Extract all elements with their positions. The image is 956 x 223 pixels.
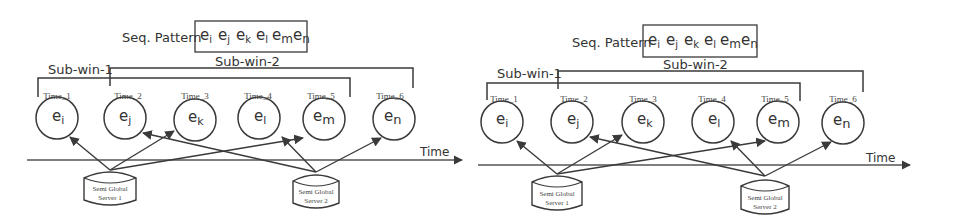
- diagram-canvas: Seq. Pattern ei ej ek el em en Sub-win-1…: [0, 0, 956, 223]
- seq-pattern-events: ei ej ek el em en: [648, 31, 758, 51]
- sub-window-1-label: Sub-win-1: [48, 62, 113, 77]
- sub-window-2-label: Sub-win-2: [663, 57, 728, 72]
- time-label: Time_2: [114, 91, 142, 101]
- svg-text:em: em: [720, 31, 741, 51]
- svg-text:ei: ei: [52, 107, 64, 127]
- svg-text:Semi Global: Semi Global: [747, 194, 782, 202]
- time-slot: Time_2 ej: [551, 94, 593, 143]
- svg-text:em: em: [768, 110, 790, 130]
- svg-text:en: en: [833, 111, 850, 131]
- sub-window-1-label: Sub-win-1: [497, 66, 562, 81]
- time-slot: Time_1 ei: [36, 91, 78, 139]
- seq-pattern-label: Seq. Pattern: [572, 35, 652, 50]
- time-slot: Time_3 ek: [174, 91, 216, 141]
- svg-text:ek: ek: [637, 110, 653, 130]
- svg-text:Server 1: Server 1: [98, 194, 122, 202]
- seq-pattern: Seq. Pattern ei ej ek el em en: [122, 21, 310, 52]
- sub-window-2: Sub-win-2: [110, 54, 413, 88]
- seq-pattern-events: ei ej ek el em en: [200, 26, 310, 46]
- diagram-left: Seq. Pattern ei ej ek el em en Sub-win-1…: [27, 21, 462, 208]
- svg-text:ej: ej: [666, 31, 678, 50]
- svg-text:ej: ej: [567, 110, 579, 130]
- time-axis-label: Time: [419, 145, 449, 159]
- svg-text:en: en: [384, 107, 401, 127]
- time-slot: Time_4 el: [692, 94, 734, 143]
- time-axis-label: Time: [865, 151, 895, 165]
- time-slot: Time_3 ek: [622, 94, 664, 143]
- time-slot: Time_5 em: [303, 91, 345, 140]
- svg-text:ek: ek: [236, 26, 251, 45]
- sub-window-2-bracket: [558, 71, 863, 92]
- time-slot: Time_5 em: [757, 94, 799, 143]
- svg-text:em: em: [272, 26, 293, 46]
- svg-text:Server 1: Server 1: [545, 199, 569, 207]
- time-slot: Time_4 el: [238, 91, 280, 139]
- server-2: Semi Global Server 2: [741, 180, 789, 214]
- server-2: Semi Global Server 2: [293, 175, 339, 208]
- svg-text:ek: ek: [188, 108, 204, 128]
- sub-window-2: Sub-win-2: [558, 57, 863, 92]
- svg-text:Semi Global: Semi Global: [298, 188, 333, 196]
- time-slot: Time_2 ej: [104, 91, 146, 139]
- svg-text:ej: ej: [119, 107, 131, 127]
- svg-text:Semi Global: Semi Global: [539, 190, 574, 198]
- time-slot: Time_1 ei: [481, 94, 523, 143]
- svg-text:el: el: [256, 26, 268, 45]
- diagram-right: Seq. Pattern ei ej ek el em en Sub-win-1…: [478, 25, 910, 214]
- server-1: Semi Global Server 1: [532, 176, 582, 210]
- svg-text:Server 2: Server 2: [753, 203, 777, 211]
- seq-pattern: Seq. Pattern ei ej ek el em en: [572, 25, 758, 57]
- svg-text:ei: ei: [200, 26, 212, 45]
- server-1: Semi Global Server 1: [84, 172, 136, 205]
- time-slot: Time_6 en: [373, 91, 415, 140]
- sub-window-2-label: Sub-win-2: [215, 54, 280, 69]
- svg-text:el: el: [254, 107, 266, 127]
- svg-text:ei: ei: [648, 31, 660, 50]
- svg-text:ei: ei: [496, 110, 508, 130]
- svg-text:el: el: [708, 110, 720, 130]
- svg-text:el: el: [704, 31, 716, 50]
- time-slot: Time_6 en: [822, 94, 864, 144]
- svg-text:en: en: [741, 31, 758, 51]
- svg-text:ej: ej: [218, 26, 230, 45]
- svg-text:Semi Global: Semi Global: [92, 185, 127, 193]
- svg-text:em: em: [313, 107, 335, 127]
- svg-text:ek: ek: [684, 31, 699, 50]
- seq-pattern-label: Seq. Pattern: [122, 30, 202, 45]
- svg-text:Server 2: Server 2: [304, 197, 328, 205]
